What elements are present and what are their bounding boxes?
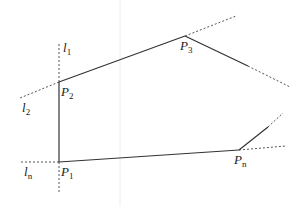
point-label-p3: P3 [179, 38, 193, 55]
polygon-edge [59, 150, 239, 162]
polygon-diagram: P1P2P3Pnl1l2ln [0, 0, 306, 206]
polygon-edge [185, 36, 248, 66]
dashed-line [20, 82, 59, 98]
labels: P1P2P3Pnl1l2ln [22, 38, 247, 181]
dashed-line [239, 146, 286, 150]
polygon-edge [59, 36, 185, 82]
point-label-p2: P2 [60, 84, 73, 101]
line-label-l2: l2 [22, 100, 30, 117]
diagram-canvas: P1P2P3Pnl1l2ln [0, 0, 306, 206]
dashed-line [248, 66, 290, 87]
dashed-line [185, 16, 236, 36]
dashed-line [268, 113, 283, 127]
point-label-p1: P1 [60, 164, 73, 181]
polygon-edges [59, 36, 268, 162]
line-label-ln: ln [24, 164, 33, 181]
point-label-pn: Pn [233, 152, 247, 169]
polygon-edge [239, 127, 268, 150]
line-label-l1: l1 [63, 40, 71, 57]
